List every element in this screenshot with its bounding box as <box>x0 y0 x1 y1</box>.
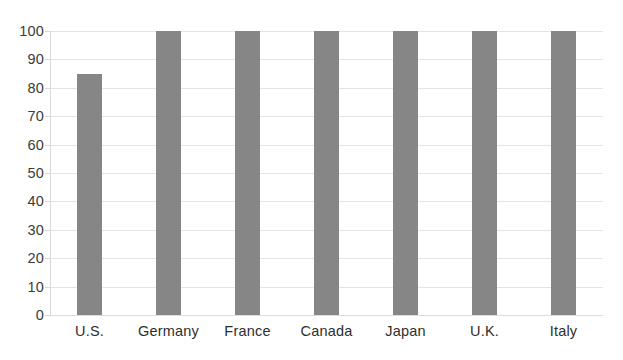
y-axis-tick-mark <box>45 315 50 316</box>
bar <box>393 31 418 315</box>
y-axis-tick-label: 30 <box>0 223 44 238</box>
x-axis-category-label: Italy <box>550 322 578 340</box>
y-axis-tick-mark <box>45 31 50 32</box>
y-axis-tick-mark <box>45 287 50 288</box>
y-axis-tick-label: 40 <box>0 194 44 209</box>
y-axis-labels: 0102030405060708090100 <box>0 0 44 360</box>
x-axis-labels: U.S.GermanyFranceCanadaJapanU.K.Italy <box>50 322 603 346</box>
bar <box>235 31 260 315</box>
y-axis-tick-label: 90 <box>0 52 44 67</box>
bar <box>156 31 181 315</box>
bar <box>77 74 102 315</box>
y-axis-line <box>50 31 51 316</box>
y-axis-tick-mark <box>45 145 50 146</box>
bar <box>472 31 497 315</box>
y-axis-tick-label: 60 <box>0 137 44 152</box>
y-axis-tick-mark <box>45 258 50 259</box>
bar-chart: 0102030405060708090100 U.S.GermanyFrance… <box>0 0 623 360</box>
x-axis-category-label: Germany <box>138 322 199 340</box>
x-axis-category-label: Japan <box>385 322 426 340</box>
y-axis-tick-label: 10 <box>0 279 44 294</box>
x-axis-category-label: France <box>224 322 270 340</box>
y-axis-tick-label: 100 <box>0 24 44 39</box>
y-axis-tick-label: 20 <box>0 251 44 266</box>
y-axis-tick-mark <box>45 230 50 231</box>
gridline <box>50 315 603 316</box>
y-axis-tick-label: 80 <box>0 81 44 96</box>
x-axis-category-label: Canada <box>301 322 353 340</box>
plot-area <box>50 31 603 315</box>
bar <box>551 31 576 315</box>
y-axis-tick-mark <box>45 88 50 89</box>
x-axis-category-label: U.S. <box>75 322 104 340</box>
y-axis-tick-mark <box>45 116 50 117</box>
bar <box>314 31 339 315</box>
y-axis-tick-label: 70 <box>0 109 44 124</box>
x-axis-category-label: U.K. <box>470 322 499 340</box>
y-axis-tick-mark <box>45 173 50 174</box>
y-axis-tick-mark <box>45 59 50 60</box>
y-axis-tick-label: 0 <box>0 308 44 323</box>
y-axis-tick-label: 50 <box>0 166 44 181</box>
y-axis-tick-mark <box>45 201 50 202</box>
